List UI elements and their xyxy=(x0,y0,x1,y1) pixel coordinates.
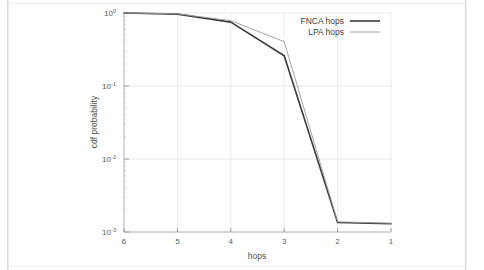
x-tick-label-6: 6 xyxy=(122,237,127,246)
plot-area-background xyxy=(124,13,391,232)
y-tick-label-1e-2: 10-2 xyxy=(102,154,116,164)
y-tick-label-1e-3: 10-3 xyxy=(102,227,116,237)
x-tick-label-4: 4 xyxy=(229,237,234,246)
x-tick-label-2: 2 xyxy=(335,237,340,246)
y-tick-label-1e-1: 10-1 xyxy=(102,81,116,91)
y-axis-title: cdf probability xyxy=(89,95,99,148)
y-axis-tick-labels: 10010-110-210-3 xyxy=(102,8,116,237)
y-tick-label-1e0: 100 xyxy=(104,8,116,18)
x-axis-tick-labels: 654321 xyxy=(122,237,394,246)
x-tick-label-1: 1 xyxy=(389,237,394,246)
x-axis-title: hops xyxy=(248,251,266,261)
x-tick-label-3: 3 xyxy=(282,237,287,246)
cdf-line-chart: 654321 10010-110-210-3 hops cdf probabil… xyxy=(0,0,484,270)
legend-label-fnca-hops: FNCA hops xyxy=(301,16,344,26)
legend-label-lpa-hops: LPA hops xyxy=(308,27,344,37)
x-tick-label-5: 5 xyxy=(175,237,180,246)
figure-canvas: 654321 10010-110-210-3 hops cdf probabil… xyxy=(0,0,484,270)
